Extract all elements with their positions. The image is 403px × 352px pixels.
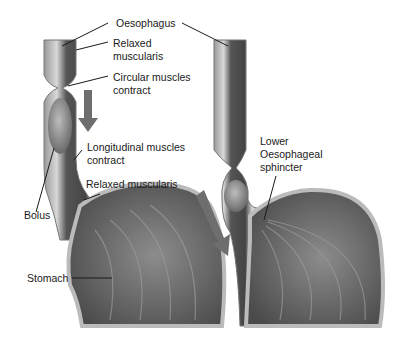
label-bolus: Bolus [24,209,50,221]
label-les: Lower [260,135,289,147]
label-circular-muscles-2: contract [113,84,150,96]
label-longitudinal-muscles-2: contract [87,154,124,166]
label-stomach: Stomach [27,272,68,284]
label-les-2: Oesophageal [260,148,322,160]
label-relaxed-muscularis-bottom: Relaxed muscularis [86,178,178,190]
label-relaxed-muscularis-top: Relaxed [113,37,152,49]
label-les-3: sphincter [260,161,303,173]
label-circular-muscles: Circular muscles [113,71,191,83]
down-arrow-left [78,90,98,132]
bolus-shape [48,98,72,154]
label-relaxed-muscularis-top-2: muscularis [113,50,163,62]
label-oesophagus: Oesophagus [116,17,176,29]
label-longitudinal-muscles: Longitudinal muscles [87,141,185,153]
peristalsis-diagram: Oesophagus Relaxed muscularis Circular m… [0,0,403,352]
diagram-illustration [0,0,403,352]
